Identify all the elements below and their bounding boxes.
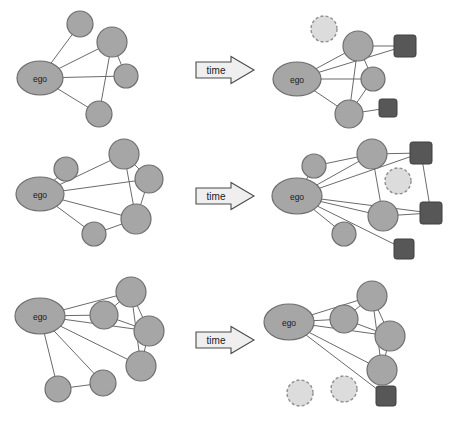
row-2-before-ego-label: ego [33, 190, 47, 200]
row-3-before-alter-node[interactable] [134, 316, 164, 346]
row-1-before-alter-node[interactable] [86, 101, 112, 127]
row-3-after-ego-label: ego [282, 318, 296, 328]
time-arrow-label: time [207, 191, 226, 202]
row-2-after-alter-node[interactable] [368, 201, 398, 231]
row-1-after-alter-node[interactable] [343, 31, 373, 61]
row-1-after-square-node[interactable] [379, 99, 397, 117]
row-1-after-alter-node[interactable] [335, 100, 363, 128]
row-2-after-square-node[interactable] [420, 202, 442, 224]
row-2-before-alter-node[interactable] [109, 139, 139, 169]
row-2-after-alter-node[interactable] [302, 154, 326, 178]
row-3-after-square-node[interactable] [376, 386, 396, 406]
row-2-before-alter-node[interactable] [54, 157, 78, 181]
caption-strip [0, 414, 458, 424]
row-2-after-alter-node[interactable] [332, 222, 356, 246]
row-3-after-alter-node[interactable] [357, 281, 387, 311]
row-3-before-alter-node[interactable] [116, 277, 146, 307]
row-3-before-alter-node[interactable] [45, 376, 71, 402]
row-1-after-ego-label: ego [290, 75, 304, 85]
row-1-after-square-node[interactable] [394, 35, 416, 57]
row-1-before-alter-node[interactable] [67, 11, 93, 37]
row-3-after-alter-node[interactable] [375, 321, 405, 351]
row-3-after-dashed-node[interactable] [331, 376, 357, 402]
row-1-before-alter-node[interactable] [114, 64, 138, 88]
row-2-after-square-node[interactable] [410, 142, 432, 164]
row-1-after-dashed-node[interactable] [311, 16, 337, 42]
network-diagram: egoegoegoegoegoegotimetimetime [0, 0, 458, 424]
time-arrow-label: time [207, 335, 226, 346]
row-1-before-alter-node[interactable] [97, 27, 127, 57]
row-3-after-alter-node[interactable] [367, 355, 397, 385]
row-1-before-ego-label: ego [33, 74, 47, 84]
row-2-before-alter-node[interactable] [135, 165, 163, 193]
row-2-after-ego-label: ego [290, 192, 304, 202]
row-3-before-ego-label: ego [33, 312, 47, 322]
row-3-before-alter-node[interactable] [126, 351, 156, 381]
row-2-after-square-node[interactable] [394, 239, 414, 259]
time-arrow-label: time [207, 65, 226, 76]
row-3-before-alter-node[interactable] [90, 370, 116, 396]
row-3-after-alter-node[interactable] [330, 305, 358, 333]
row-2-after-alter-node[interactable] [357, 139, 387, 169]
row-2-before-alter-node[interactable] [121, 204, 151, 234]
row-2-after-dashed-node[interactable] [385, 168, 411, 194]
row-3-after-dashed-node[interactable] [287, 380, 313, 406]
figure-canvas: egoegoegoegoegoegotimetimetime [0, 0, 458, 424]
row-2-before-alter-node[interactable] [82, 222, 106, 246]
row-3-before-alter-node[interactable] [90, 301, 118, 329]
row-1-after-alter-node[interactable] [361, 67, 385, 91]
